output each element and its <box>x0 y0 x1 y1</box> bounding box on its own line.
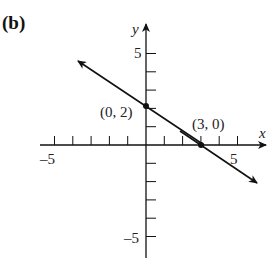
data-line <box>78 61 204 145</box>
coordinate-plane: (0, 2) (3, 0) x y –5 5 5 –5 <box>0 0 278 272</box>
label-point-3-0: (3, 0) <box>192 116 225 133</box>
data-line-ext <box>180 131 257 183</box>
y-tick-label-neg5: –5 <box>123 230 139 246</box>
x-axis-label: x <box>258 125 266 141</box>
y-tick-label-5: 5 <box>134 45 142 61</box>
y-axis-label: y <box>130 21 139 37</box>
label-point-0-2: (0, 2) <box>100 104 133 121</box>
point-0-2 <box>143 103 149 109</box>
x-tick-label-5: 5 <box>230 151 238 167</box>
x-tick-label-neg5: –5 <box>39 151 55 167</box>
point-3-0 <box>198 142 204 148</box>
